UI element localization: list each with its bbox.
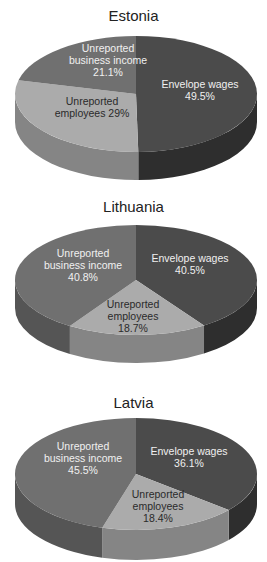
- label-envelope-wages: Envelope wages 40.5%: [140, 252, 240, 276]
- estonia-chart: Estonia Envelope wages 49.5% Unreported …: [0, 0, 267, 190]
- label-envelope-wages: Envelope wages 36.1%: [139, 445, 239, 469]
- label-unreported-employees: Unreported employees 29%: [42, 95, 142, 119]
- label-unreported-business-income: Unreported business income 21.1%: [58, 42, 158, 78]
- label-envelope-wages: Envelope wages 49.5%: [150, 78, 250, 102]
- label-unreported-employees: Unreported employees 18.7%: [83, 298, 183, 334]
- lithuania-chart: Lithuania Envelope wages 40.5% Unreporte…: [0, 190, 267, 375]
- label-unreported-business-income: Unreported business income 45.5%: [33, 440, 133, 476]
- label-unreported-business-income: Unreported business income 40.8%: [33, 247, 133, 283]
- latvia-chart: Latvia Envelope wages 36.1% Unreported e…: [0, 375, 267, 562]
- label-unreported-employees: Unreported employees 18.4%: [108, 488, 208, 524]
